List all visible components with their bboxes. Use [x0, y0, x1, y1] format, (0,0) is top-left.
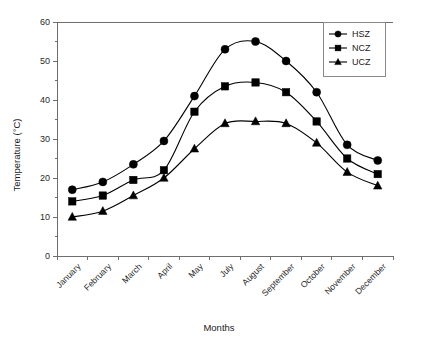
data-point: [252, 38, 260, 46]
data-point: [374, 170, 381, 177]
legend-marker-circle: [335, 31, 341, 37]
chart-legend: HSZNCZUCZ: [323, 22, 385, 76]
data-point: [313, 88, 321, 96]
chart-figure: 0102030405060 JanuaryFebruaryMarchAprilM…: [0, 0, 428, 347]
data-point: [343, 155, 350, 162]
data-point: [374, 156, 382, 164]
y-tick-label: 60: [40, 17, 50, 27]
y-tick-label: 20: [40, 173, 50, 183]
y-tick-label: 30: [40, 134, 50, 144]
data-point: [129, 160, 137, 168]
y-tick-label: 10: [40, 212, 50, 222]
data-point: [313, 118, 320, 125]
data-point: [99, 178, 107, 186]
data-point: [99, 192, 106, 199]
data-point: [343, 141, 351, 149]
y-axis-title: Temperature (°C): [11, 119, 22, 192]
data-point: [68, 186, 76, 194]
data-point: [252, 79, 259, 86]
data-point: [221, 83, 228, 90]
data-point: [160, 167, 167, 174]
data-point: [221, 45, 229, 53]
line-chart: 0102030405060 JanuaryFebruaryMarchAprilM…: [0, 0, 428, 347]
legend-label-ncz: NCZ: [352, 43, 371, 53]
legend-label-ucz: UCZ: [352, 57, 371, 67]
y-tick-label: 50: [40, 56, 50, 66]
data-point: [191, 108, 198, 115]
x-axis-title: Months: [203, 322, 234, 333]
data-point: [282, 57, 290, 65]
data-point: [160, 137, 168, 145]
data-point: [282, 89, 289, 96]
data-point: [69, 198, 76, 205]
data-point: [130, 176, 137, 183]
data-point: [190, 92, 198, 100]
y-tick-label: 0: [45, 251, 50, 261]
legend-marker-square: [335, 45, 341, 51]
legend-label-hsz: HSZ: [352, 29, 371, 39]
y-tick-label: 40: [40, 95, 50, 105]
